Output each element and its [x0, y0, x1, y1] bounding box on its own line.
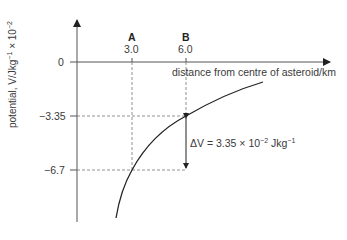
x-tick-b: 6.0: [178, 44, 193, 55]
potential-curve: [116, 82, 263, 218]
marker-a-label: A: [128, 32, 136, 43]
marker-b-label: B: [182, 32, 190, 43]
x-tick-a: 3.0: [124, 44, 139, 55]
y-axis-label: potential, V/Jkg−1 × 10−2: [8, 21, 18, 128]
y-tick-zero: 0: [58, 57, 64, 68]
guide-lines: [77, 62, 186, 170]
x-axis-label: distance from centre of asteroid/km: [172, 67, 336, 78]
delta-v-annotation: ΔV = 3.35 × 10−2 Jkg−1: [190, 138, 295, 149]
y-tick-3-35: −3.35: [39, 111, 66, 122]
y-tick-6-7: −6.7: [44, 165, 65, 176]
